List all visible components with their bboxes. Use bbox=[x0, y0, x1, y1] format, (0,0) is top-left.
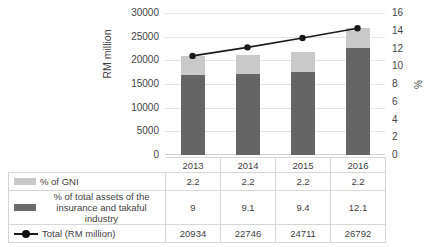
y-axis-right-tick-label: 6 bbox=[392, 97, 414, 107]
table-cell: 12.1 bbox=[331, 191, 386, 225]
y-axis-right-tick-label: 8 bbox=[392, 79, 414, 89]
table-cell: 24711 bbox=[276, 225, 331, 243]
y-axis-left-tick-label: 10000 bbox=[117, 103, 159, 113]
table-row: % of total assets of theinsurance and ta… bbox=[9, 191, 386, 225]
table-corner-cell bbox=[9, 158, 166, 173]
y-axis-left-tick-label: 5000 bbox=[117, 126, 159, 136]
total-line-marker bbox=[299, 35, 305, 41]
legend-label-line1: % of total assets of the bbox=[53, 191, 149, 202]
legend-dot-icon bbox=[22, 230, 30, 238]
y-axis-right-tick-label: 4 bbox=[392, 115, 414, 125]
data-table: 2013201420152016% of GNI2.22.22.22.2% of… bbox=[8, 157, 386, 243]
table-cell: 26792 bbox=[331, 225, 386, 243]
table-row: Total (RM million)20934227462471126792 bbox=[9, 225, 386, 243]
y-axis-right-tick-label: 12 bbox=[392, 44, 414, 54]
legend-entry: Total (RM million) bbox=[12, 225, 165, 242]
legend-label-line2: insurance and takaful industry bbox=[56, 202, 146, 224]
table-legend-cell: % of total assets of theinsurance and ta… bbox=[9, 191, 166, 225]
y-axis-right-tick-label: 0 bbox=[392, 150, 414, 160]
y-axis-right-ticks: 0246810121416 bbox=[392, 0, 416, 160]
table-header-year: 2015 bbox=[276, 158, 331, 173]
legend-entry: % of total assets of theinsurance and ta… bbox=[12, 191, 165, 224]
table-cell: 2.2 bbox=[331, 173, 386, 191]
table-cell: 9.4 bbox=[276, 191, 331, 225]
table-row-years: 2013201420152016 bbox=[9, 158, 386, 173]
table-cell: 9.1 bbox=[221, 191, 276, 225]
total-line-marker bbox=[189, 53, 195, 59]
table-cell: 2.2 bbox=[166, 173, 221, 191]
table-header-year: 2013 bbox=[166, 158, 221, 173]
total-line-marker bbox=[354, 25, 360, 31]
plot-area: RM million % 050001000015000200002500030… bbox=[0, 0, 439, 160]
legend-swatch-gni-icon bbox=[14, 178, 36, 185]
total-line-path bbox=[193, 28, 358, 56]
y-axis-left-tick-label: 30000 bbox=[117, 8, 159, 18]
total-line-marker bbox=[244, 44, 250, 50]
y-axis-right-tick-label: 14 bbox=[392, 26, 414, 36]
table-legend-cell: % of GNI bbox=[9, 173, 166, 191]
table-header-year: 2016 bbox=[331, 158, 386, 173]
table-cell: 2.2 bbox=[276, 173, 331, 191]
legend-label: % of GNI bbox=[40, 176, 79, 187]
table-cell: 22746 bbox=[221, 225, 276, 243]
legend-entry: % of GNI bbox=[12, 173, 165, 190]
table-header-year: 2014 bbox=[221, 158, 276, 173]
data-table-body: 2013201420152016% of GNI2.22.22.22.2% of… bbox=[9, 158, 386, 243]
legend-label: Total (RM million) bbox=[42, 228, 115, 239]
table-cell: 20934 bbox=[166, 225, 221, 243]
y-axis-left-tick-label: 25000 bbox=[117, 32, 159, 42]
y-axis-left-title: RM million bbox=[101, 19, 115, 89]
table-row: % of GNI2.22.22.22.2 bbox=[9, 173, 386, 191]
legend-swatch-assets-icon bbox=[14, 204, 36, 211]
y-axis-right-tick-label: 16 bbox=[392, 8, 414, 18]
y-axis-right-tick-label: 10 bbox=[392, 61, 414, 71]
chart-figure: RM million % 050001000015000200002500030… bbox=[0, 0, 439, 247]
y-axis-left-tick-label: 15000 bbox=[117, 79, 159, 89]
table-cell: 9 bbox=[166, 191, 221, 225]
legend-line-marker-icon bbox=[14, 230, 38, 238]
table-cell: 2.2 bbox=[221, 173, 276, 191]
table-legend-cell: Total (RM million) bbox=[9, 225, 166, 243]
legend-label: % of total assets of theinsurance and ta… bbox=[40, 191, 165, 224]
line-series-total bbox=[165, 13, 385, 155]
y-axis-left-ticks: 050001000015000200002500030000 bbox=[117, 0, 159, 160]
y-axis-right-tick-label: 2 bbox=[392, 132, 414, 142]
y-axis-left-tick-label: 20000 bbox=[117, 55, 159, 65]
